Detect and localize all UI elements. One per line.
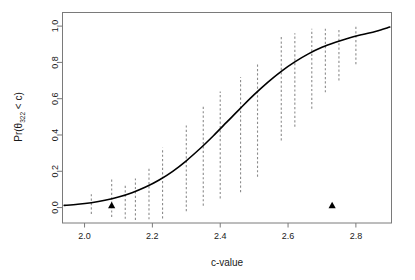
y-tick-label: 0.4 [50,129,60,142]
y-tick-label-group: 0.0 [50,201,60,214]
x-tick-label: 2.4 [214,231,227,241]
chart-figure: 2.02.22.42.62.8 0.00.20.40.60.81.0 c-val… [0,0,415,280]
y-axis-title-subscript: 322 [19,112,26,123]
y-tick-label-group: 0.8 [50,56,60,69]
y-tick-label: 0.6 [50,92,60,105]
y-tick-label: 0.0 [50,201,60,214]
x-tick-label: 2.2 [146,231,159,241]
y-tick-label: 0.8 [50,56,60,69]
chart-svg: 2.02.22.42.62.8 0.00.20.40.60.81.0 c-val… [0,0,415,280]
y-axis-title-suffix: < c) [13,92,24,112]
x-tick-label: 2.8 [350,231,363,241]
y-tick-label: 1.0 [50,20,60,33]
y-tick-label-group: 0.6 [50,92,60,105]
x-tick-label: 2.0 [78,231,91,241]
y-axis-title-prefix: Pr(θ [13,122,24,141]
y-tick-label-group: 0.2 [50,165,60,178]
x-tick-label: 2.6 [282,231,295,241]
y-tick-label-group: 1.0 [50,20,60,33]
x-axis-title: c-value [211,257,244,268]
y-tick-label-group: 0.4 [50,129,60,142]
y-tick-label: 0.2 [50,165,60,178]
